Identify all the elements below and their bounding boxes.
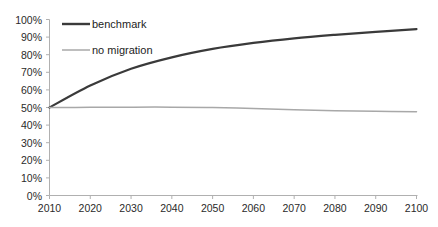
series-line-benchmark bbox=[50, 29, 417, 107]
chart-series-group bbox=[50, 29, 417, 112]
chart-container: 100%90%80%70%60%50%40%30%20%10%0% 201020… bbox=[0, 0, 438, 227]
series-line-no-migration bbox=[50, 107, 417, 112]
y-axis-tick-label: 100% bbox=[0, 15, 42, 26]
y-axis-tick-label: 90% bbox=[0, 32, 42, 43]
x-axis-tick-label: 2060 bbox=[231, 203, 275, 214]
y-axis-tick-label: 60% bbox=[0, 85, 42, 96]
x-axis-tick-label: 2050 bbox=[191, 203, 235, 214]
y-axis-tick-label: 80% bbox=[0, 50, 42, 61]
y-axis-tick-label: 70% bbox=[0, 67, 42, 78]
x-axis-tick-label: 2090 bbox=[354, 203, 398, 214]
x-axis-tick-label: 2070 bbox=[272, 203, 316, 214]
chart-plot-area bbox=[0, 0, 438, 227]
x-axis-tick-label: 2040 bbox=[150, 203, 194, 214]
x-axis-tick-label: 2100 bbox=[395, 203, 438, 214]
y-axis-tick-label: 20% bbox=[0, 155, 42, 166]
legend-label-no-migration: no migration bbox=[92, 45, 153, 56]
y-axis-tick-label: 0% bbox=[0, 191, 42, 202]
x-axis-ticks bbox=[50, 196, 417, 200]
x-axis-tick-label: 2020 bbox=[68, 203, 112, 214]
x-axis-tick-label: 2010 bbox=[28, 203, 72, 214]
y-axis-tick-label: 50% bbox=[0, 103, 42, 114]
x-axis-tick-label: 2030 bbox=[109, 203, 153, 214]
x-axis-tick-label: 2080 bbox=[313, 203, 357, 214]
legend-label-benchmark: benchmark bbox=[92, 19, 146, 30]
legend-sample-lines bbox=[62, 24, 90, 50]
y-axis-tick-label: 10% bbox=[0, 173, 42, 184]
y-axis-tick-label: 40% bbox=[0, 120, 42, 131]
y-axis-tick-label: 30% bbox=[0, 138, 42, 149]
